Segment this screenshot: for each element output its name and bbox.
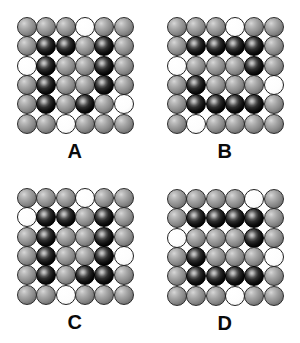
gray-sphere <box>114 265 134 285</box>
black-sphere <box>244 56 264 76</box>
gray-sphere <box>75 285 95 305</box>
gray-sphere <box>225 114 245 134</box>
gray-sphere <box>94 188 114 208</box>
gray-sphere <box>264 208 284 228</box>
gray-sphere <box>186 228 206 248</box>
black-sphere <box>94 227 114 247</box>
gray-sphere <box>264 286 284 306</box>
black-sphere <box>225 266 245 286</box>
black-sphere <box>186 208 206 228</box>
gray-sphere <box>56 227 76 247</box>
white-sphere <box>244 189 264 209</box>
panel-b: B <box>150 0 300 171</box>
gray-sphere <box>75 207 95 227</box>
gray-sphere <box>114 285 134 305</box>
gray-sphere <box>264 266 284 286</box>
white-sphere <box>264 75 284 95</box>
gray-sphere <box>206 228 226 248</box>
gray-sphere <box>167 286 187 306</box>
gray-sphere <box>206 17 226 37</box>
white-sphere <box>114 94 134 114</box>
gray-sphere <box>75 246 95 266</box>
lattice-grid-b <box>167 17 283 133</box>
black-sphere <box>94 246 114 266</box>
gray-sphere <box>264 94 284 114</box>
gray-sphere <box>17 227 37 247</box>
gray-sphere <box>206 75 226 95</box>
white-sphere <box>56 285 76 305</box>
gray-sphere <box>167 94 187 114</box>
gray-sphere <box>225 228 245 248</box>
black-sphere <box>75 265 95 285</box>
gray-sphere <box>56 188 76 208</box>
gray-sphere <box>94 94 114 114</box>
lattice-grid-d <box>167 189 283 305</box>
gray-sphere <box>114 56 134 76</box>
white-sphere <box>56 114 76 134</box>
gray-sphere <box>167 266 187 286</box>
black-sphere <box>36 36 56 56</box>
gray-sphere <box>167 17 187 37</box>
lattice-grid-a <box>17 17 133 133</box>
gray-sphere <box>75 36 95 56</box>
gray-sphere <box>17 246 37 266</box>
gray-sphere <box>167 208 187 228</box>
gray-sphere <box>17 265 37 285</box>
black-sphere <box>225 208 245 228</box>
gray-sphere <box>36 17 56 37</box>
gray-sphere <box>264 114 284 134</box>
gray-sphere <box>56 246 76 266</box>
gray-sphere <box>206 114 226 134</box>
black-sphere <box>75 94 95 114</box>
gray-sphere <box>17 36 37 56</box>
panel-label-b: B <box>150 140 300 163</box>
black-sphere <box>94 36 114 56</box>
gray-sphere <box>225 189 245 209</box>
gray-sphere <box>36 114 56 134</box>
black-sphere <box>206 266 226 286</box>
gray-sphere <box>114 75 134 95</box>
black-sphere <box>94 75 114 95</box>
gray-sphere <box>56 56 76 76</box>
gray-sphere <box>17 188 37 208</box>
black-sphere <box>244 208 264 228</box>
gray-sphere <box>56 75 76 95</box>
black-sphere <box>244 228 264 248</box>
gray-sphere <box>114 17 134 37</box>
panel-label-d: D <box>150 312 300 335</box>
gray-sphere <box>186 286 206 306</box>
gray-sphere <box>225 75 245 95</box>
gray-sphere <box>264 189 284 209</box>
black-sphere <box>206 36 226 56</box>
black-sphere <box>56 207 76 227</box>
gray-sphere <box>36 285 56 305</box>
gray-sphere <box>186 56 206 76</box>
gray-sphere <box>167 189 187 209</box>
lattice-grid-c <box>17 188 133 304</box>
gray-sphere <box>186 189 206 209</box>
panel-c: C <box>0 171 150 342</box>
gray-sphere <box>94 114 114 134</box>
black-sphere <box>244 94 264 114</box>
black-sphere <box>36 207 56 227</box>
gray-sphere <box>114 188 134 208</box>
white-sphere <box>17 56 37 76</box>
gray-sphere <box>17 17 37 37</box>
gray-sphere <box>114 207 134 227</box>
gray-sphere <box>56 265 76 285</box>
black-sphere <box>94 207 114 227</box>
black-sphere <box>36 265 56 285</box>
gray-sphere <box>206 56 226 76</box>
gray-sphere <box>17 75 37 95</box>
gray-sphere <box>167 36 187 56</box>
white-sphere <box>225 17 245 37</box>
gray-sphere <box>94 285 114 305</box>
figure-canvas: A B C D <box>0 0 300 343</box>
gray-sphere <box>167 247 187 267</box>
gray-sphere <box>167 75 187 95</box>
black-sphere <box>36 75 56 95</box>
black-sphere <box>94 56 114 76</box>
gray-sphere <box>206 247 226 267</box>
black-sphere <box>206 208 226 228</box>
gray-sphere <box>186 17 206 37</box>
